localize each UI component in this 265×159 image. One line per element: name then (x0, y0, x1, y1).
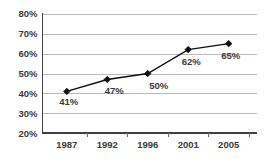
data-point-label: 62% (182, 56, 202, 67)
y-axis-tick-label: 80% (18, 8, 38, 19)
y-axis-tick-label: 40% (18, 88, 38, 99)
data-point-label: 41% (59, 96, 79, 107)
y-axis-tick-label: 60% (18, 48, 38, 59)
data-point-label: 50% (149, 80, 169, 91)
y-axis-tick-label: 50% (18, 68, 38, 79)
x-axis-tick-label: 1987 (56, 139, 77, 150)
data-point-label: 47% (105, 85, 125, 96)
data-point-label: 65% (221, 50, 241, 61)
x-axis-tick-label: 1992 (97, 139, 118, 150)
y-axis-tick-label: 70% (18, 28, 38, 39)
y-axis-tick-label: 20% (18, 128, 38, 139)
x-axis-tick-label: 2005 (218, 139, 240, 150)
chart-background (0, 0, 265, 159)
x-axis-tick-label: 2001 (178, 139, 200, 150)
y-axis-tick-label: 30% (18, 108, 38, 119)
line-chart: 80%70%60%50%40%30%20% 198719921996200120… (0, 0, 265, 159)
chart-canvas: 80%70%60%50%40%30%20% 198719921996200120… (0, 0, 265, 159)
x-axis-tick-label: 1996 (137, 139, 158, 150)
